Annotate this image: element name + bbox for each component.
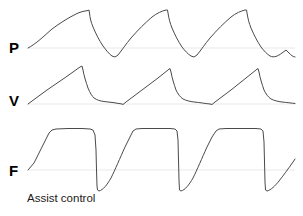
flow-waveform-trace [28,129,295,192]
waveform-plot-area [0,0,303,216]
baseline-gridlines [28,48,295,170]
pressure-waveform-trace [28,10,295,57]
volume-waveform-trace [28,66,295,105]
figure-caption: Assist control [27,192,95,204]
axis-label-flow: F [9,163,18,178]
axis-label-volume: V [9,93,19,108]
ventilator-waveform-figure: P V F Assist control [0,0,303,216]
axis-label-pressure: P [9,40,19,55]
